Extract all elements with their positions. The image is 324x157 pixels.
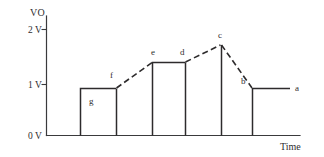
point-label-a: a (295, 83, 299, 93)
point-label-b: b (241, 76, 246, 86)
point-label-g: g (89, 96, 94, 106)
y-tick-label-0v: 0 V (28, 131, 42, 141)
segment-d-ramp (186, 45, 221, 62)
y-tick-label-1v: 1 V (28, 80, 42, 90)
voltage-waveform-chart: VO 2 V 1 V 0 V g f e d c b a Time (0, 0, 324, 157)
point-label-f: f (110, 70, 113, 80)
segment-g-step (81, 89, 117, 136)
segment-c-fall (222, 45, 253, 88)
segment-e-step (153, 63, 186, 136)
y-tick-label-2v: 2 V (28, 25, 42, 35)
point-label-d: d (180, 47, 185, 57)
chart-figure: VO 2 V 1 V 0 V g f e d c b a Time (0, 0, 324, 157)
point-label-e: e (151, 47, 155, 57)
segment-f-ramp (117, 63, 153, 89)
point-label-c: c (218, 30, 222, 40)
x-axis-title: Time (280, 141, 301, 152)
y-axis-title: VO (30, 7, 45, 18)
